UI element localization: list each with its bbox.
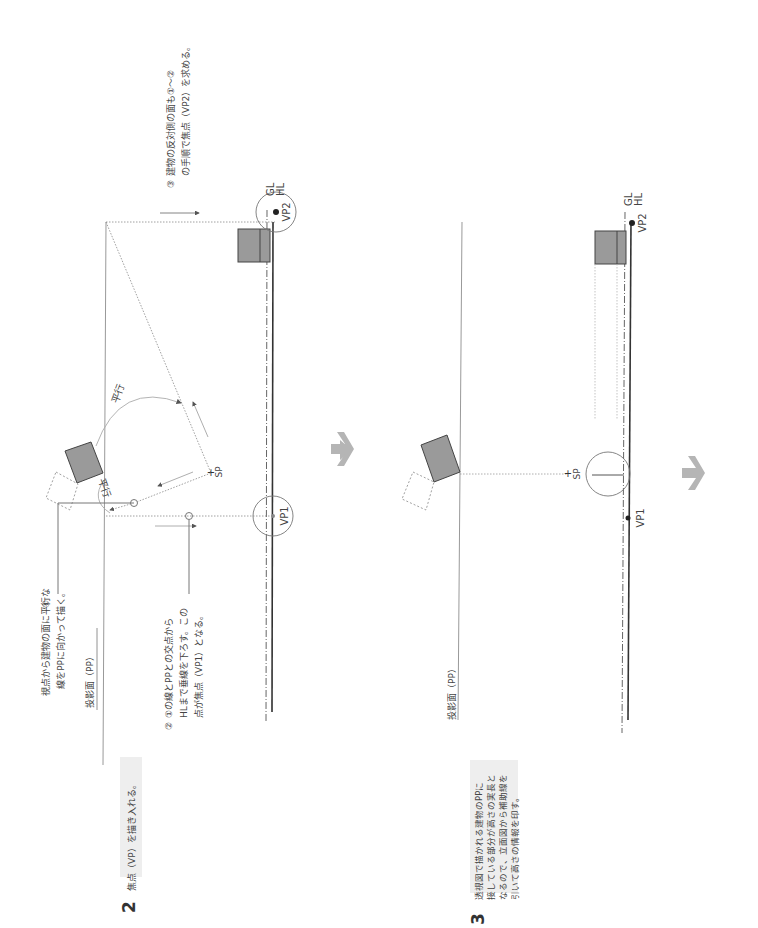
- building-plan: [65, 442, 103, 483]
- step3-line-4: 引いて高さの情報を印す。: [510, 793, 520, 900]
- note-3: ③ 建物の反対側の面も①〜② の手順で焦点（VP2）を求める。: [165, 42, 191, 188]
- step2-diagram: + SP 平行 平行 VP1 VP2 GL HL: [40, 42, 296, 913]
- gl-line: [266, 210, 267, 722]
- parallel-label-1: 平行: [109, 382, 127, 405]
- note-2: ② ①の線とPPとの交点から HLまで垂線を下ろす。この 点が焦点（VP1）とな…: [163, 608, 204, 730]
- step2-number: 2: [119, 901, 139, 913]
- vp1-label-3: VP1: [635, 508, 646, 527]
- gl-line-3: [622, 212, 625, 733]
- step3-line-3: なるので、立面図から補助線を: [498, 774, 508, 900]
- elevation-outline: [46, 472, 78, 510]
- svg-text:③: ③: [166, 180, 176, 188]
- height-circle: [586, 452, 630, 496]
- svg-text:建物の反対側の面も①〜②: 建物の反対側の面も①〜②: [165, 70, 176, 176]
- pp-label-3: 投影面（PP）: [446, 664, 457, 720]
- svg-text:の手順で焦点（VP2）を求める。: の手順で焦点（VP2）を求める。: [180, 42, 191, 176]
- svg-text:①の線とPPとの交点から: ①の線とPPとの交点から: [163, 618, 174, 718]
- vp1-label: VP1: [279, 506, 290, 525]
- step3-diagram: VP2 GL HL + SP VP1 投影面（PP） 3 透視図で描かれる建物の…: [402, 192, 648, 925]
- building-plan-3: [421, 435, 460, 482]
- perspective-diagram-page: + SP 平行 平行 VP1 VP2 GL HL: [0, 0, 758, 928]
- svg-text:+: +: [564, 468, 572, 479]
- elevation-outline-3: [402, 472, 434, 510]
- step3-number: 3: [468, 913, 488, 925]
- parallel-label-2: 平行: [96, 477, 114, 500]
- next-step-arrow-1-chevron: [331, 432, 354, 466]
- svg-text:点が焦点（VP1）となる。: 点が焦点（VP1）となる。: [193, 611, 204, 718]
- sp-label: SP: [214, 466, 224, 478]
- step2-title: 焦点（VP）を描き入れる。: [126, 780, 137, 891]
- next-step-arrow-2: [682, 456, 705, 490]
- step3-line-1: 透視図で描かれる建物のPPに: [474, 782, 484, 900]
- svg-text:視点から建物の面に平行な: 視点から建物の面に平行な: [40, 588, 51, 696]
- pp-label: 投影面（PP）: [84, 652, 95, 708]
- hl-label: HL: [275, 182, 286, 196]
- svg-text:②: ②: [164, 722, 174, 730]
- step3-line-2: 接している部分が高さの実長と: [486, 774, 496, 900]
- note-1: ① 視点から建物の面に平行な 線をPPに向かって描く。: [40, 588, 66, 696]
- building-elevation-3: [595, 231, 626, 264]
- sp-label-3: SP: [572, 468, 582, 480]
- vp2-label: VP2: [281, 202, 292, 221]
- svg-text:HLまで垂線を下ろす。この: HLまで垂線を下ろす。この: [178, 608, 189, 718]
- hl-line: [272, 222, 273, 712]
- svg-text:線をPPに向かって描く。: 線をPPに向かって描く。: [55, 588, 66, 689]
- vp2-label-3: VP2: [637, 213, 648, 232]
- building-elevation: [238, 229, 270, 262]
- hl-label-3: HL: [633, 192, 644, 206]
